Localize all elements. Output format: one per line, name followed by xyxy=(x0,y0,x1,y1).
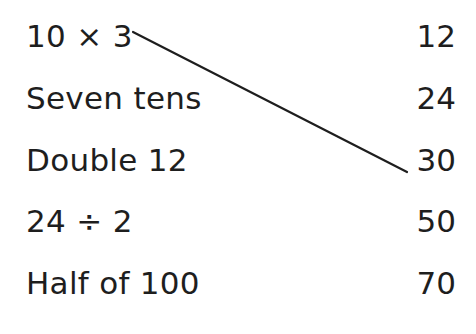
matching-exercise: 10 × 3 Seven tens Double 12 24 ÷ 2 Half … xyxy=(0,0,476,334)
connection-lines xyxy=(0,0,476,334)
connector-line xyxy=(133,32,407,172)
